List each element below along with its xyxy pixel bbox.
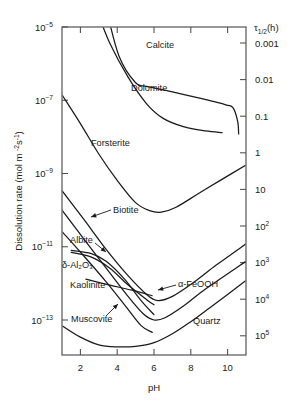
y-tick-label: 10−7 xyxy=(35,94,53,106)
dissolution-rate-vs-ph-chart: 246810 10−510−710−910−1110−13 0.0010.010… xyxy=(0,0,295,408)
y-axis-ticks xyxy=(62,27,68,320)
y2-tick-label: 0.01 xyxy=(255,74,274,85)
x-tick-label: 2 xyxy=(78,362,83,373)
x-axis-ticks xyxy=(80,27,227,355)
y2-tick-label: 0.1 xyxy=(255,111,268,122)
secondary-y-axis-ticks xyxy=(240,43,246,336)
y2-tick-label: 103 xyxy=(255,256,270,268)
secondary-y-axis-tick-labels: 0.0010.010.1110102103104105 xyxy=(255,38,279,342)
y-tick-label: 10−9 xyxy=(35,167,53,179)
curve-forsterite xyxy=(62,95,246,213)
figure-container: 246810 10−510−710−910−1110−13 0.0010.010… xyxy=(0,0,295,408)
y2-tick-label: 105 xyxy=(255,329,270,341)
curve-label-biotite: Biotite xyxy=(113,205,139,215)
y-axis-title: Dissolution rate (mol m -2s-1) xyxy=(13,131,24,250)
y2-tick-label: 104 xyxy=(255,293,270,305)
biotite-leader-arrowhead xyxy=(91,213,97,217)
x-axis-title: pH xyxy=(148,382,160,393)
curve-label-kaolinite: Kaolinite xyxy=(70,280,105,290)
curve-label-quartz: Quartz xyxy=(193,316,221,326)
curve-label-muscovite: Muscovite xyxy=(71,314,112,324)
x-tick-label: 4 xyxy=(115,362,120,373)
x-tick-label: 10 xyxy=(222,362,233,373)
curve-label-calcite: Calcite xyxy=(146,40,174,50)
curve-labels: CalciteDolomiteForsteriteBiotiteAlbiteδ-… xyxy=(62,40,221,326)
data-curves xyxy=(62,9,246,348)
x-tick-label: 6 xyxy=(151,362,156,373)
y2-tick-label: 1 xyxy=(255,147,260,158)
y2-tick-label: 0.001 xyxy=(255,38,279,49)
curve-label-feooh: α-FeOOH xyxy=(178,279,218,289)
y2-tick-label: 10 xyxy=(255,184,266,195)
x-axis-tick-labels: 246810 xyxy=(78,362,233,373)
y-axis-tick-labels: 10−510−710−910−1110−13 xyxy=(31,21,53,326)
curve-label-al2o3: δ-Al₂O₃ xyxy=(62,260,93,270)
secondary-y-axis-title: τ1/2(h) xyxy=(254,22,279,35)
curve-label-albite: Albite xyxy=(70,235,93,245)
y-tick-label: 10−11 xyxy=(32,240,54,252)
curve-label-forsterite: Forsterite xyxy=(91,138,130,148)
y2-tick-label: 102 xyxy=(255,220,270,232)
x-tick-label: 8 xyxy=(188,362,193,373)
plot-frame xyxy=(62,27,246,355)
curve-label-dolomite: Dolomite xyxy=(131,83,167,93)
y-tick-label: 10−13 xyxy=(31,314,53,326)
svg-text:Dissolution rate (mol m -2s-1): Dissolution rate (mol m -2s-1) xyxy=(13,131,24,250)
y-tick-label: 10−5 xyxy=(35,21,53,33)
